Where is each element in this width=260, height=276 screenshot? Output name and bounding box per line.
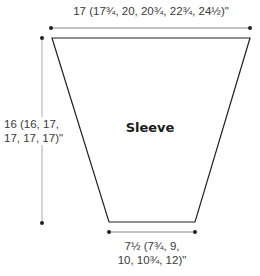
bottom-dimension-line: [107, 230, 197, 234]
bottom-width-line1: 7½ (7¾, 9,: [104, 239, 200, 253]
top-dimension-line: [49, 26, 252, 30]
top-width-label: 17 (17¾, 20, 20¾, 22¾, 24½)": [52, 4, 250, 18]
bottom-width-label: 7½ (7¾, 9, 10, 10¾, 12)": [104, 239, 200, 267]
length-label: 16 (16, 17, 17, 17, 17)": [4, 117, 66, 145]
length-label-line1: 16 (16, 17,: [4, 117, 66, 131]
bottom-width-line2: 10, 10¾, 12)": [104, 253, 200, 267]
length-label-line2: 17, 17, 17)": [4, 131, 66, 145]
sleeve-title: Sleeve: [110, 120, 190, 135]
